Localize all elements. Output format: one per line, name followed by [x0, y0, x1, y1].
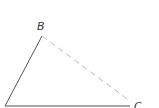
triangle-diagram: B C — [0, 0, 159, 108]
edge-b-c-dashed — [42, 36, 130, 101]
edge-a-b — [5, 36, 42, 106]
vertex-label-b: B — [37, 20, 45, 33]
vertex-label-c: C — [134, 100, 142, 108]
